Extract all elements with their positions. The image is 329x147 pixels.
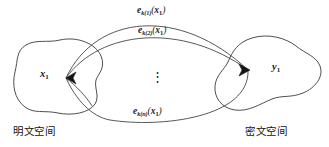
plaintext-point-label: x1 — [40, 69, 49, 81]
arc-bottom-close-paren: ) — [159, 106, 162, 116]
arc-top-close-paren: ) — [162, 5, 165, 15]
arc-middle-close-paren: ) — [163, 25, 166, 35]
vertical-ellipsis-icon: ⋮ — [151, 70, 164, 83]
ciphertext-space-caption: 密文空间 — [245, 126, 287, 137]
ciphertext-space-blob — [215, 36, 321, 110]
arc-bottom-label: ek(n)(x1) — [133, 107, 162, 117]
encryption-mapping-figure: x1 y1 ek(1)(x1) ek(2)(x1) ek(n)(x1) ⋮ 明文… — [0, 0, 329, 147]
plaintext-space-caption: 明文空间 — [13, 126, 55, 137]
plaintext-space-blob — [14, 39, 103, 114]
arc-middle-label: ek(2)(x1) — [138, 26, 166, 36]
arc-bottom-key-subscript: k(n) — [137, 110, 147, 117]
ciphertext-point-label: y1 — [272, 62, 280, 74]
left-node-crossing-stroke — [66, 78, 92, 106]
arc-top-key-subscript: k(1) — [141, 9, 151, 16]
plaintext-point-subscript: 1 — [45, 73, 49, 81]
ciphertext-point-subscript: 1 — [277, 66, 281, 74]
arc-top-label: ek(1)(x1) — [137, 6, 165, 16]
arc-middle-key-subscript: k(2) — [142, 29, 152, 36]
